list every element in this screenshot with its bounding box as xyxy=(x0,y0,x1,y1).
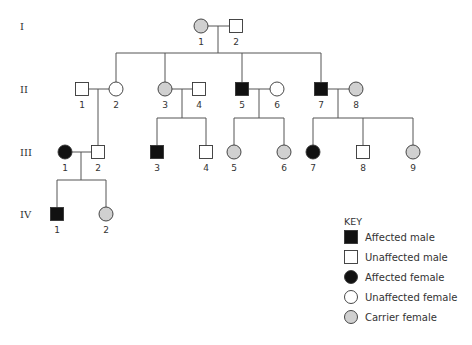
generation-label-I: I xyxy=(20,21,24,32)
key-item-label: Carrier female xyxy=(365,312,437,323)
individual-III-2: 2 xyxy=(92,146,105,174)
individual-III-4: 4 xyxy=(200,146,213,174)
individual-number: 8 xyxy=(360,163,366,173)
individual-square-icon xyxy=(315,83,328,96)
individual-III-6: 6 xyxy=(277,145,291,173)
individual-number: 2 xyxy=(103,225,109,235)
individual-I-2: 2 xyxy=(230,20,243,48)
individual-number: 5 xyxy=(239,100,245,110)
key-items: Affected maleUnaffected maleAffected fem… xyxy=(345,231,458,324)
individual-number: 1 xyxy=(79,100,85,110)
key-item-label: Unaffected female xyxy=(365,292,457,303)
individual-number: 4 xyxy=(196,100,202,110)
individual-III-1: 1 xyxy=(58,145,72,173)
individual-number: 5 xyxy=(231,163,237,173)
legend-key: KEY Affected maleUnaffected maleAffected… xyxy=(344,216,457,324)
individual-number: 3 xyxy=(162,100,168,110)
individual-III-8: 8 xyxy=(357,146,370,174)
individual-II-7: 7 xyxy=(315,83,328,111)
individual-circle-icon xyxy=(277,145,291,159)
individual-number: 1 xyxy=(198,37,204,47)
individual-II-4: 4 xyxy=(193,83,206,111)
key-item: Carrier female xyxy=(345,311,437,324)
individual-circle-icon xyxy=(58,145,72,159)
individual-II-6: 6 xyxy=(270,82,284,110)
individual-III-9: 9 xyxy=(406,145,420,173)
key-item: Affected male xyxy=(345,231,435,244)
key-title: KEY xyxy=(344,216,362,227)
individual-III-5: 5 xyxy=(227,145,241,173)
pedigree-chart: I II III IV 121234567812345678912 KEY Af… xyxy=(0,0,472,345)
key-circle-icon xyxy=(345,291,358,304)
individual-IV-1: 1 xyxy=(51,208,64,236)
individual-II-1: 1 xyxy=(76,83,89,111)
individual-circle-icon xyxy=(406,145,420,159)
individual-number: 2 xyxy=(113,100,119,110)
individual-number: 6 xyxy=(281,163,287,173)
individual-circle-icon xyxy=(194,19,208,33)
individual-number: 1 xyxy=(54,225,60,235)
relationship-lines xyxy=(57,26,413,208)
key-circle-icon xyxy=(345,311,358,324)
individual-II-3: 3 xyxy=(158,82,172,110)
individual-number: 7 xyxy=(318,100,324,110)
individual-square-icon xyxy=(51,208,64,221)
key-item: Unaffected female xyxy=(345,291,458,304)
individual-square-icon xyxy=(76,83,89,96)
individual-number: 8 xyxy=(353,100,359,110)
generation-label-II: II xyxy=(20,84,28,95)
individual-number: 4 xyxy=(203,163,209,173)
key-item: Affected female xyxy=(345,271,445,284)
individual-II-8: 8 xyxy=(349,82,363,110)
individual-circle-icon xyxy=(349,82,363,96)
individual-circle-icon xyxy=(99,207,113,221)
individual-number: 1 xyxy=(62,163,68,173)
key-circle-icon xyxy=(345,271,358,284)
individual-IV-2: 2 xyxy=(99,207,113,235)
individual-square-icon xyxy=(230,20,243,33)
individual-square-icon xyxy=(151,146,164,159)
key-item-label: Unaffected male xyxy=(365,252,448,263)
individual-II-5: 5 xyxy=(236,83,249,111)
individual-circle-icon xyxy=(109,82,123,96)
individual-square-icon xyxy=(200,146,213,159)
individual-number: 2 xyxy=(95,163,101,173)
individual-number: 9 xyxy=(410,163,416,173)
individual-number: 2 xyxy=(233,37,239,47)
individual-I-1: 1 xyxy=(194,19,208,47)
generation-label-III: III xyxy=(20,147,32,158)
individual-circle-icon xyxy=(227,145,241,159)
individual-square-icon xyxy=(357,146,370,159)
individual-square-icon xyxy=(236,83,249,96)
key-square-icon xyxy=(345,251,358,264)
key-square-icon xyxy=(345,231,358,244)
individual-number: 7 xyxy=(310,163,316,173)
generation-labels: I II III IV xyxy=(20,21,32,220)
individual-circle-icon xyxy=(306,145,320,159)
key-item-label: Affected male xyxy=(365,232,435,243)
individual-number: 6 xyxy=(274,100,280,110)
individual-number: 3 xyxy=(154,163,160,173)
key-item: Unaffected male xyxy=(345,251,448,264)
generation-label-IV: IV xyxy=(20,209,32,220)
individual-III-3: 3 xyxy=(151,146,164,174)
key-item-label: Affected female xyxy=(365,272,444,283)
individual-square-icon xyxy=(92,146,105,159)
individual-circle-icon xyxy=(270,82,284,96)
individual-III-7: 7 xyxy=(306,145,320,173)
individual-II-2: 2 xyxy=(109,82,123,110)
individual-square-icon xyxy=(193,83,206,96)
individual-circle-icon xyxy=(158,82,172,96)
